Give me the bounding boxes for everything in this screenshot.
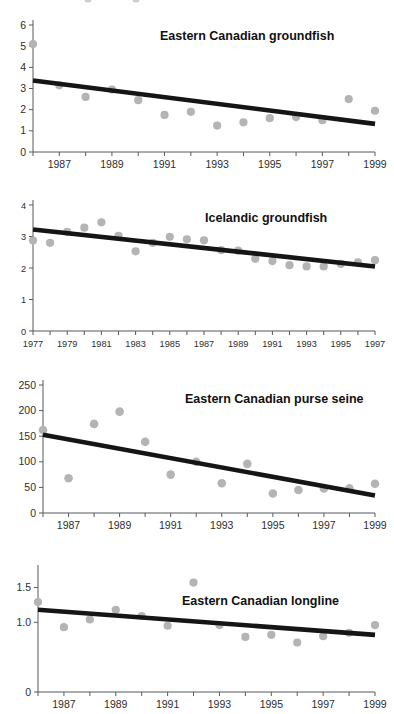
data-point <box>82 93 90 101</box>
chart-panel-eastern-canadian-purse-seine: 0501001502002501987198919911993199519971… <box>0 363 394 548</box>
multi-panel-scatter-figure: 01234561987198919911993199519971999Easte… <box>0 0 394 714</box>
data-point <box>303 262 311 270</box>
chart-canvas-icelandic-groundfish: 0123419771979198119831985198719891991199… <box>0 182 394 363</box>
x-tick-label: 1993 <box>205 158 229 170</box>
x-tick-label: 1999 <box>363 519 387 531</box>
data-point <box>183 235 191 243</box>
x-tick-label: 1983 <box>125 339 145 349</box>
data-point <box>132 247 140 255</box>
y-tick-label: 50 <box>24 481 36 493</box>
chart-panel-icelandic-groundfish: 0123419771979198119831985198719891991199… <box>0 182 394 363</box>
axis-lines <box>38 565 375 692</box>
x-tick-label: 1991 <box>159 519 183 531</box>
cropped-marker <box>84 0 91 3</box>
data-point <box>266 114 274 122</box>
data-point <box>267 631 275 639</box>
data-point <box>29 40 37 48</box>
x-tick-label: 1997 <box>311 158 335 170</box>
x-tick-label: 1993 <box>210 519 234 531</box>
y-tick-label: 250 <box>18 379 36 391</box>
y-tick-label: 150 <box>18 430 36 442</box>
data-point <box>189 578 197 586</box>
trend-line <box>33 80 375 123</box>
data-point <box>269 489 278 498</box>
y-tick-label: 0 <box>21 327 26 337</box>
chart-canvas-eastern-canadian-longline: 01.01.51987198919911993199519971999Easte… <box>0 548 394 714</box>
data-point <box>166 470 175 479</box>
x-tick-label: 1987 <box>48 158 72 170</box>
x-tick-label: 1987 <box>57 519 81 531</box>
data-point <box>112 606 120 614</box>
y-tick-label: 4 <box>20 61 26 73</box>
x-tick-label: 1981 <box>91 339 111 349</box>
data-point <box>293 638 301 646</box>
y-tick-label: 100 <box>18 455 36 467</box>
y-tick-label: 6 <box>20 19 26 31</box>
data-point <box>60 623 68 631</box>
x-tick-label: 1993 <box>296 339 316 349</box>
data-point <box>320 262 328 270</box>
data-point <box>345 95 353 103</box>
data-point <box>141 438 150 447</box>
chart-panel-eastern-canadian-longline: 01.01.51987198919911993199519971999Easte… <box>0 548 394 714</box>
chart-title: Eastern Canadian groundfish <box>160 29 334 43</box>
x-tick-label: 1999 <box>363 158 387 170</box>
data-point <box>371 256 379 264</box>
y-tick-label: 1 <box>21 295 26 305</box>
x-tick-label: 1977 <box>23 339 43 349</box>
x-tick-label: 1993 <box>208 698 232 710</box>
data-point <box>29 236 37 244</box>
data-point <box>294 486 303 495</box>
y-tick-label: 2 <box>20 103 26 115</box>
data-point <box>187 108 195 116</box>
chart-canvas-eastern-canadian-purse-seine: 0501001502002501987198919911993199519971… <box>0 363 394 548</box>
data-point <box>134 96 142 104</box>
data-point <box>160 111 168 119</box>
y-tick-label: 3 <box>20 82 26 94</box>
x-tick-label: 1989 <box>104 698 128 710</box>
data-point <box>166 233 174 241</box>
x-tick-label: 1987 <box>52 698 76 710</box>
data-point <box>90 420 99 429</box>
chart-title: Icelandic groundfish <box>205 211 327 225</box>
data-point <box>34 598 42 606</box>
x-tick-label: 1997 <box>365 339 385 349</box>
data-point <box>46 239 54 247</box>
x-tick-label: 1991 <box>262 339 282 349</box>
cropped-marker <box>132 0 139 3</box>
data-point <box>243 460 252 469</box>
data-point <box>371 621 379 629</box>
data-point <box>86 615 94 623</box>
y-tick-label: 0 <box>20 146 26 158</box>
data-point <box>80 224 88 232</box>
data-point <box>200 236 208 244</box>
data-point <box>97 218 105 226</box>
x-tick-label: 1999 <box>363 698 387 710</box>
y-tick-label: 1.0 <box>16 616 31 628</box>
data-point <box>371 107 379 115</box>
data-point <box>239 118 247 126</box>
data-point <box>371 480 380 489</box>
trend-line <box>33 230 375 267</box>
x-tick-label: 1995 <box>258 158 282 170</box>
y-tick-label: 200 <box>18 404 36 416</box>
chart-title: Eastern Canadian purse seine <box>185 392 364 406</box>
y-tick-label: 4 <box>21 201 26 211</box>
data-point <box>241 633 249 641</box>
data-point <box>217 479 226 488</box>
data-point <box>213 121 221 129</box>
data-point <box>115 407 124 416</box>
x-tick-label: 1989 <box>100 158 124 170</box>
x-tick-label: 1987 <box>194 339 214 349</box>
trend-line <box>43 435 375 496</box>
x-tick-label: 1991 <box>153 158 177 170</box>
chart-panel-eastern-canadian-groundfish: 01234561987198919911993199519971999Easte… <box>0 0 394 182</box>
x-tick-label: 1989 <box>228 339 248 349</box>
data-point <box>64 474 73 483</box>
x-tick-label: 1985 <box>160 339 180 349</box>
data-point <box>164 622 172 630</box>
data-point <box>268 257 276 265</box>
data-point <box>285 261 293 269</box>
x-tick-label: 1995 <box>331 339 351 349</box>
y-tick-label: 2 <box>21 264 26 274</box>
